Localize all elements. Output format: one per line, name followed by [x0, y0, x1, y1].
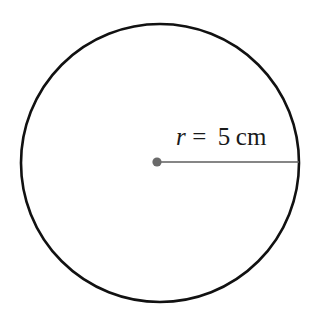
- radius-unit: cm: [231, 123, 267, 150]
- radius-value: 5: [213, 123, 231, 150]
- circle-diagram: r = 5 cm: [0, 0, 315, 324]
- diagram-canvas: [0, 0, 315, 324]
- equals-sign: =: [186, 123, 213, 150]
- radius-variable-symbol: r: [176, 123, 186, 150]
- center-point-dot: [152, 157, 161, 166]
- radius-label: r = 5 cm: [176, 124, 267, 150]
